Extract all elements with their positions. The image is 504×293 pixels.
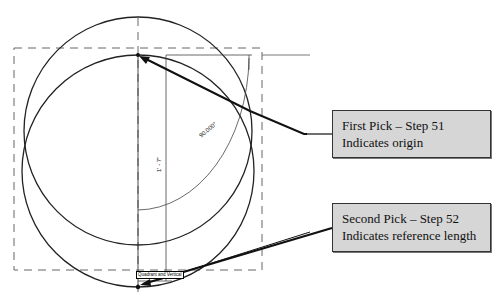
callout-first-pick-description: Indicates origin <box>342 134 481 151</box>
leader-line-first-pick <box>144 58 307 134</box>
snap-tooltip: Quadrant and Vertical <box>136 271 184 279</box>
callout-second-pick: Second Pick – Step 52 Indicates referenc… <box>332 203 491 252</box>
length-dimension-label: 1' - 7" <box>156 157 162 172</box>
callout-second-pick-description: Indicates reference length <box>342 227 481 244</box>
callout-second-pick-title: Second Pick – Step 52 <box>342 210 481 227</box>
drawing-canvas: 90.000° 1' - 7" Quadrant and Vertical Fi… <box>0 0 504 293</box>
callout-first-pick-title: First Pick – Step 51 <box>342 117 481 134</box>
second-pick-point <box>136 285 140 289</box>
angle-dimension-arc <box>138 58 249 210</box>
callout-first-pick: First Pick – Step 51 Indicates origin <box>332 110 491 158</box>
arrowhead-second-pick-icon <box>140 279 151 286</box>
